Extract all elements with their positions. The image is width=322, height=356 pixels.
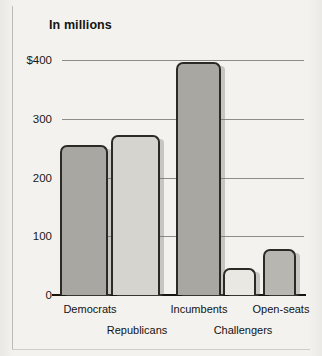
x-axis-label-challengers: Challengers [214,324,273,336]
y-axis-tick-label: 300 [6,113,52,125]
y-axis-tick-label: 100 [6,230,52,242]
x-axis-label-republicans: Republicans [107,324,168,336]
gridline [62,60,304,61]
x-axis-label-open-seats: Open-seats [253,303,310,315]
bar-republicans[interactable] [111,135,160,295]
y-axis-tick-label: $400 [6,54,52,66]
bar-incumbents[interactable] [176,62,221,295]
bar-challengers[interactable] [223,268,256,295]
bar-open-seats[interactable] [263,249,296,295]
plot-area: $4003002001000DemocratsRepublicansIncumb… [0,0,322,356]
x-axis-label-democrats: Democrats [63,303,116,315]
bar-democrats[interactable] [60,145,108,295]
y-axis-tick-label: 0 [6,289,52,301]
bar-chart-figure: In millions $4003002001000DemocratsRepub… [0,0,322,356]
y-axis-tick-label: 200 [6,172,52,184]
x-axis-label-incumbents: Incumbents [171,303,228,315]
